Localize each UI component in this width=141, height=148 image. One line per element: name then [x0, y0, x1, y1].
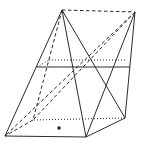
base-center-point: [58, 127, 61, 130]
geometry-diagram: [0, 0, 141, 148]
edge-Q-C: [125, 12, 135, 118]
edge-Q-A: [5, 12, 135, 136]
edge-P-Q: [62, 10, 135, 12]
edge-Q-B: [86, 12, 135, 137]
edge-Q-D: [33, 12, 135, 120]
edge-D-A: [5, 120, 33, 136]
edge-P-C: [62, 10, 125, 118]
edge-P-B: [62, 10, 86, 137]
wireframe-solid-figure: [0, 0, 141, 148]
edge-C-D: [33, 118, 125, 120]
edge-A-B: [5, 136, 86, 137]
